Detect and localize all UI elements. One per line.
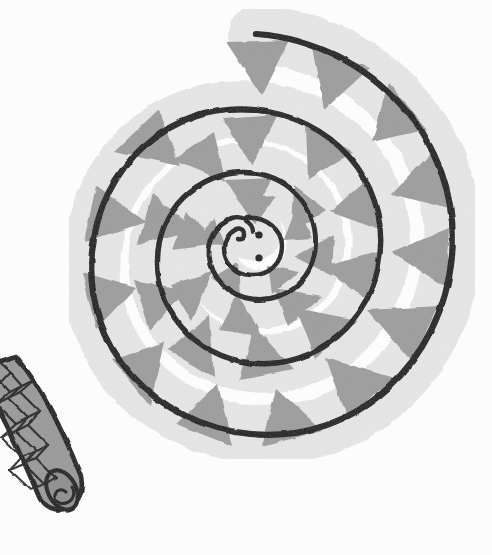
lower-eye-dot [255, 254, 262, 261]
illustration-canvas: Black and white drawing of a snake coile… [0, 0, 492, 555]
coiled-snake-drawing [0, 0, 492, 555]
upper-eye-dot [255, 231, 262, 238]
